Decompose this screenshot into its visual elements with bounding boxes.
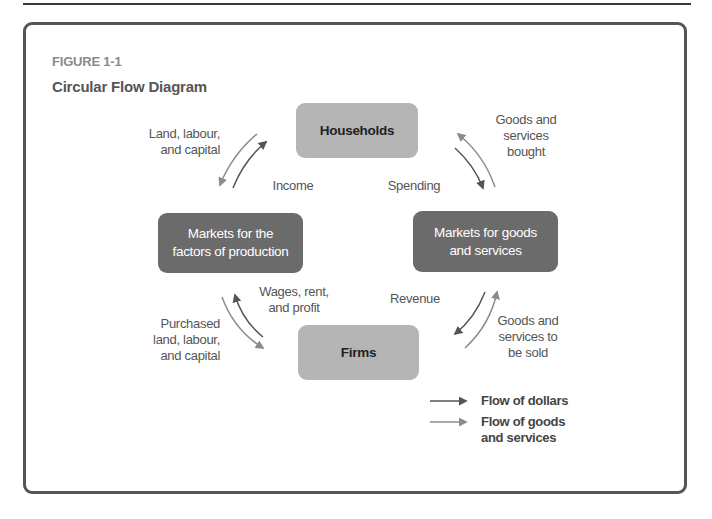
arrow-spending [455, 148, 483, 188]
arrow-revenue [455, 292, 485, 334]
arrow-wages-rent-profit [235, 295, 263, 337]
arrow-goods-bought [458, 134, 495, 187]
legend-goods-label: Flow of goods and services [481, 414, 565, 446]
arrow-purchased-inputs [222, 297, 263, 348]
flow-arrows [0, 0, 712, 519]
arrow-income [233, 142, 266, 188]
legend-dollars-label: Flow of dollars [481, 393, 568, 409]
